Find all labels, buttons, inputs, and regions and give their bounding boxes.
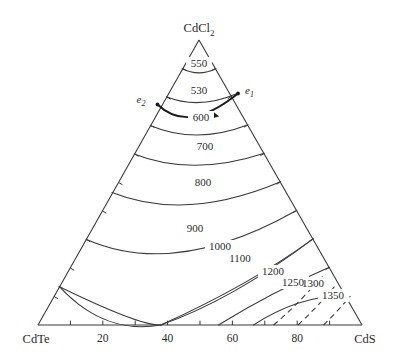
vertex-label-cdcl2: CdCl2 — [184, 21, 215, 38]
vertex-label-cds: CdS — [354, 332, 376, 346]
contour-label-900: 900 — [187, 222, 204, 234]
contour-label-700: 700 — [197, 140, 214, 152]
contour-label-600: 600 — [193, 111, 210, 123]
vertex-label-cdte: CdTe — [23, 332, 50, 346]
contour-label-1350: 1350 — [322, 289, 345, 301]
tick-label-60: 60 — [227, 332, 239, 344]
point-label-e2: e2 — [137, 93, 146, 108]
contour-label-550: 550 — [191, 57, 208, 69]
tick-label-40: 40 — [162, 332, 174, 344]
contour-label-1100: 1100 — [229, 252, 251, 264]
contour-label-1000: 1000 — [209, 240, 232, 252]
point-e2-dot — [156, 103, 160, 107]
isotherm-700 — [134, 153, 264, 165]
ternary-phase-diagram: 550 530 600 700 800 900 1000 1100 1200 1… — [0, 0, 399, 357]
bottom-axis-tick-labels: 20 40 60 80 — [97, 332, 303, 344]
tick-label-20: 20 — [97, 332, 109, 344]
tick-label-80: 80 — [291, 332, 303, 344]
ticks-left-axis — [54, 69, 187, 299]
contour-label-1300: 1300 — [302, 277, 325, 289]
contour-label-530: 530 — [191, 84, 208, 96]
point-e1-dot — [236, 92, 240, 96]
isotherm-600 — [150, 125, 248, 135]
contour-label-800: 800 — [195, 176, 212, 188]
point-label-e1: e1 — [245, 84, 254, 99]
